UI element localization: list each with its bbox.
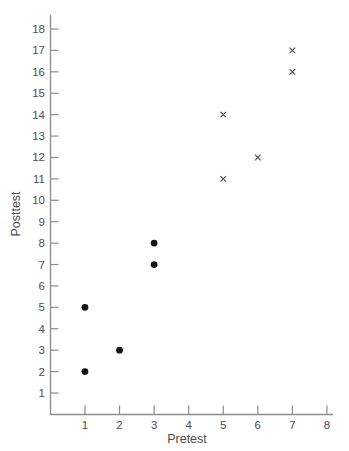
y-axis-title: Posttest [9,191,23,237]
y-tick-label: 4 [39,323,46,335]
scatter-plot: 12345678910111213141516171812345678 Post… [0,0,349,451]
axes: 12345678910111213141516171812345678 [32,15,333,431]
x-tick-label: 2 [116,419,122,431]
x-tick-label: 8 [324,419,330,431]
y-tick-label: 1 [39,387,45,399]
y-tick-label: 16 [32,66,45,78]
x-tick-label: 1 [82,419,88,431]
data-points [82,48,296,375]
data-point-dot [116,347,123,354]
y-tick-label: 8 [39,237,45,249]
y-tick-label: 13 [32,130,45,142]
y-tick-label: 3 [39,344,45,356]
data-point-dot [82,368,89,375]
y-tick-label: 6 [39,280,45,292]
data-point-dot [151,261,158,268]
data-point-dot [82,304,89,311]
y-tick-label: 10 [32,194,45,206]
y-tick-label: 17 [32,44,45,56]
x-axis-title: Pretest [167,432,207,446]
y-tick-label: 14 [32,109,45,121]
x-tick-label: 4 [185,419,192,431]
x-tick-label: 7 [289,419,295,431]
x-tick-label: 6 [255,419,261,431]
y-tick-label: 11 [33,173,45,185]
y-tick-label: 7 [39,259,45,271]
y-tick-label: 2 [39,366,45,378]
y-tick-label: 9 [39,216,45,228]
y-tick-label: 15 [32,87,45,99]
x-tick-label: 5 [220,419,226,431]
y-tick-label: 5 [39,301,45,313]
x-tick-label: 3 [151,419,157,431]
data-point-dot [151,240,158,247]
y-tick-label: 18 [32,23,45,35]
scatter-plot-figure: 12345678910111213141516171812345678 Post… [0,0,349,451]
y-tick-label: 12 [32,151,45,163]
